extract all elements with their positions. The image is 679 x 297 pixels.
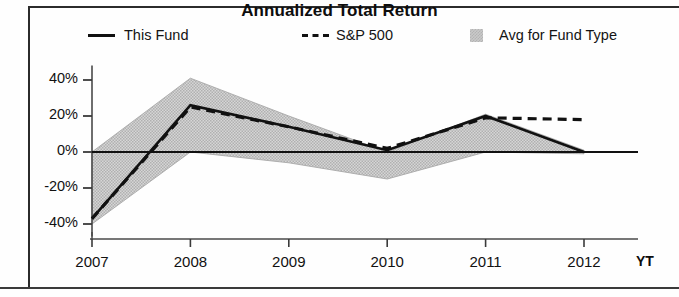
x-tick-label: 2009 xyxy=(249,253,329,270)
chart-screenshot: Annualized Total Return This Fund S&P 50… xyxy=(0,0,679,297)
x-tick-label: 2012 xyxy=(544,253,624,270)
y-tick-label: 40% xyxy=(16,70,78,86)
y-tick-label: 0% xyxy=(16,142,78,158)
x-tick-label: 2010 xyxy=(347,253,427,270)
y-tick-label: -40% xyxy=(16,214,78,230)
x-tick-label: 2008 xyxy=(150,253,230,270)
y-tick-label: -20% xyxy=(16,178,78,194)
ytd-label: YT xyxy=(636,253,654,269)
x-tick-label: 2007 xyxy=(52,253,132,270)
x-tick-label: 2011 xyxy=(446,253,526,270)
y-tick-label: 20% xyxy=(16,106,78,122)
plot-area: 40%20%0%-20%-40% 20072008200920102011201… xyxy=(0,0,679,297)
